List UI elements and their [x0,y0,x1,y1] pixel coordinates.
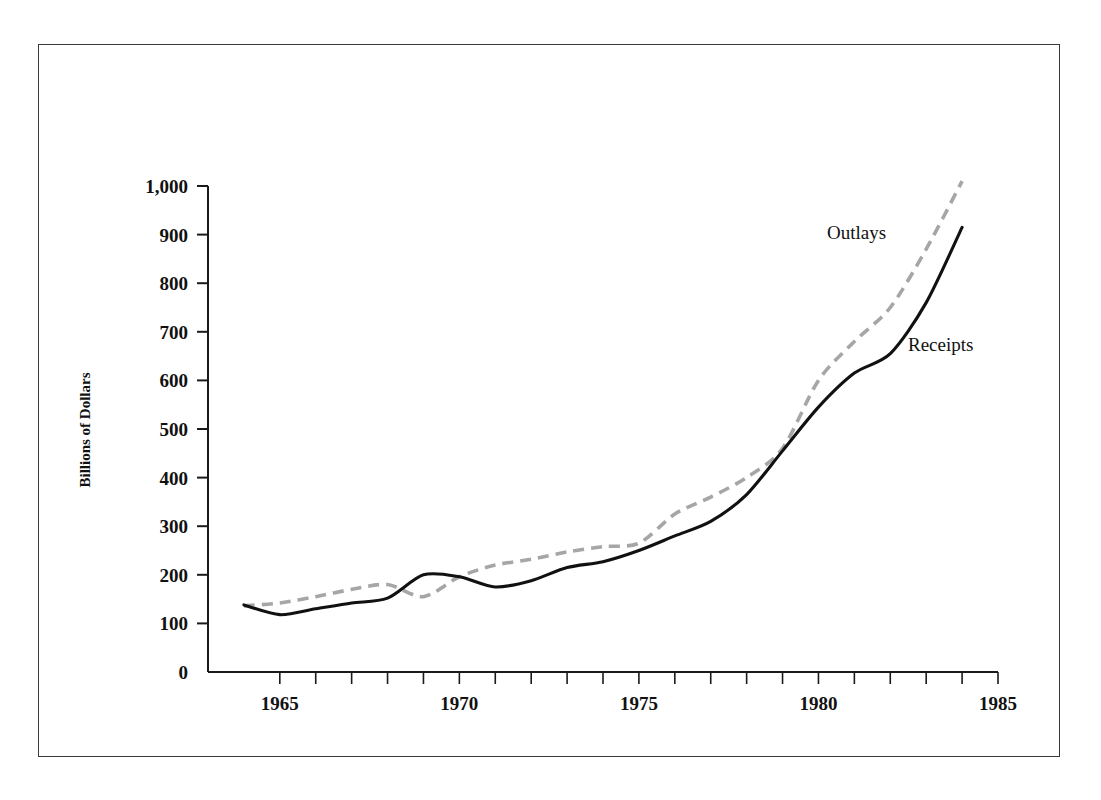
x-tick-marks [280,672,998,684]
x-axis-group: 19651970197519801985 [208,672,1017,714]
y-tick-label: 900 [160,225,189,246]
y-tick-label: 600 [160,370,189,391]
y-tick-label: 800 [160,273,189,294]
series-label-receipts: Receipts [908,334,973,355]
x-tick-labels: 19651970197519801985 [261,693,1017,714]
y-tick-labels: 01002003004005006007008009001,000 [145,176,188,683]
series-group [244,181,962,615]
y-tick-label: 300 [160,516,189,537]
x-tick-label: 1980 [799,693,837,714]
series-label-outlays: Outlays [827,222,886,243]
y-axis-group: 01002003004005006007008009001,000 Billio… [77,176,208,683]
x-tick-label: 1985 [979,693,1017,714]
chart-canvas: 01002003004005006007008009001,000 Billio… [0,0,1101,800]
y-tick-label: 200 [160,565,189,586]
y-tick-label: 500 [160,419,189,440]
series-line-outlays [244,181,962,606]
y-axis-title: Billions of Dollars [77,372,93,487]
series-line-receipts [244,227,962,614]
y-tick-label: 700 [160,322,189,343]
y-tick-label: 400 [160,468,189,489]
y-tick-label: 1,000 [145,176,188,197]
x-tick-label: 1975 [620,693,658,714]
x-tick-label: 1970 [440,693,478,714]
y-tick-marks [197,186,208,623]
y-tick-label: 0 [179,662,189,683]
x-tick-label: 1965 [261,693,299,714]
y-tick-label: 100 [160,613,189,634]
